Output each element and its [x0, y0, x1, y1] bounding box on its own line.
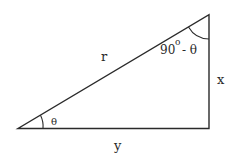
top-angle-number: 90 [160, 43, 175, 57]
right-triangle [18, 15, 209, 129]
triangle-diagram: r x y θ 90 o - θ [0, 0, 237, 164]
vertical-side-label: x [217, 72, 225, 87]
theta-label: θ [51, 116, 57, 127]
top-angle-rest: - θ [182, 43, 197, 57]
top-angle-degree: o [175, 37, 180, 47]
theta-angle-arc [41, 115, 44, 128]
top-angle-arc [189, 27, 210, 39]
hypotenuse-label: r [101, 49, 108, 64]
horizontal-side-label: y [113, 138, 122, 153]
